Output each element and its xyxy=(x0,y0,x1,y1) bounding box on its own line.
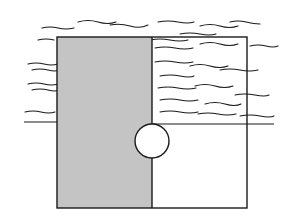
shaded-region xyxy=(57,37,152,208)
sketch-diagram xyxy=(0,0,302,223)
circle xyxy=(135,124,169,158)
